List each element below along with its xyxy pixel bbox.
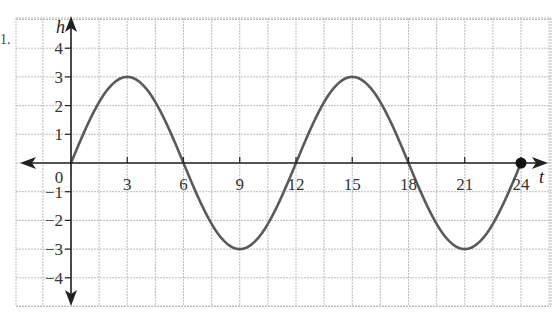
- y-axis-label: h: [56, 17, 65, 37]
- y-tick-label: −4: [45, 269, 64, 288]
- x-axis-label: t: [539, 167, 545, 187]
- endpoint-dot: [516, 158, 527, 169]
- sine-graph: 036912151821244321−1−2−3−4th 1.: [0, 0, 559, 320]
- x-tick-label: 18: [400, 175, 417, 194]
- x-tick-label: 12: [288, 175, 305, 194]
- x-tick-label: 3: [123, 175, 132, 194]
- y-tick-label: 2: [55, 97, 64, 116]
- y-tick-label: −2: [45, 211, 63, 230]
- y-tick-label: 4: [55, 39, 64, 58]
- y-tick-label: −1: [45, 183, 63, 202]
- y-tick-label: 1: [55, 125, 64, 144]
- problem-number: 1.: [0, 32, 11, 47]
- x-tick-label: 24: [513, 175, 531, 194]
- x-tick-label: 21: [456, 175, 473, 194]
- x-tick-label: 9: [236, 175, 245, 194]
- x-tick-label: 6: [179, 175, 188, 194]
- y-tick-label: −3: [45, 240, 63, 259]
- x-tick-label: 15: [344, 175, 361, 194]
- y-tick-label: 3: [55, 68, 64, 87]
